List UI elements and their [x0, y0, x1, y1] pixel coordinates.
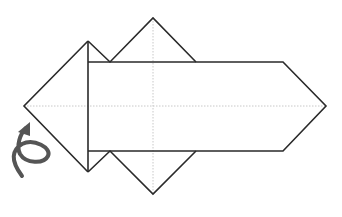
lower-notch [88, 151, 196, 194]
diagram-svg [0, 0, 342, 217]
origami-diagram: Origami step: a square base with a long … [0, 0, 342, 217]
crease-lines [24, 18, 326, 194]
upper-notch [88, 18, 196, 62]
turn-over-arrow-icon [14, 122, 49, 176]
